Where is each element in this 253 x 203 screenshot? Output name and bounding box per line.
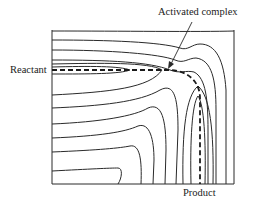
- contour-left-4: [52, 146, 141, 184]
- contour-left-5: [52, 168, 121, 184]
- contour-lines: [52, 30, 234, 184]
- contour-diagram: [0, 0, 253, 203]
- contour-left-3: [52, 125, 154, 184]
- arrow-head-icon: [168, 61, 174, 69]
- contour-product-inner: [191, 96, 205, 184]
- contour-product-outer: [183, 86, 213, 184]
- reactant-label: Reactant: [10, 64, 47, 75]
- contour-reactant-outer: [52, 63, 162, 95]
- contour-4: [52, 60, 208, 184]
- product-label: Product: [183, 187, 216, 198]
- contour-left-2: [52, 107, 166, 184]
- activated-complex-label: Activated complex: [158, 6, 238, 17]
